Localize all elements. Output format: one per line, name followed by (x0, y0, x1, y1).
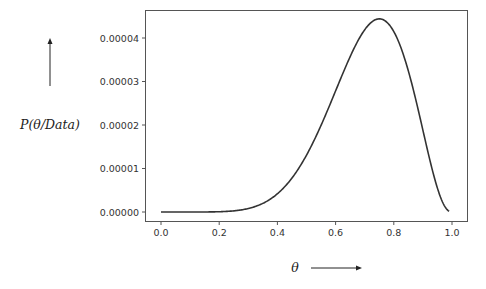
x-axis-ticks: 0.00.20.40.60.81.0 (153, 222, 459, 239)
x-axis-label: θ (291, 260, 299, 275)
y-tick-label: 0.00002 (100, 120, 139, 131)
y-axis-label: P(θ/Data) (19, 117, 80, 132)
x-tick-label: 0.4 (270, 227, 285, 238)
x-tick-label: 0.0 (153, 227, 168, 238)
y-axis-ticks: 0.000000.000010.000020.000030.00004 (100, 33, 146, 218)
y-tick-label: 0.00001 (100, 163, 139, 174)
y-tick-label: 0.00003 (100, 76, 139, 87)
x-tick-label: 0.6 (328, 227, 343, 238)
x-axis-arrow-icon (311, 266, 362, 271)
x-tick-label: 0.2 (212, 227, 227, 238)
x-tick-label: 1.0 (444, 227, 459, 238)
posterior-chart: 0.000000.000010.000020.000030.00004 0.00… (0, 0, 486, 289)
x-tick-label: 0.8 (386, 227, 401, 238)
posterior-curve (161, 19, 449, 212)
y-axis-arrow-icon (48, 38, 53, 86)
y-tick-label: 0.00004 (100, 33, 139, 44)
y-tick-label: 0.00000 (100, 207, 139, 218)
